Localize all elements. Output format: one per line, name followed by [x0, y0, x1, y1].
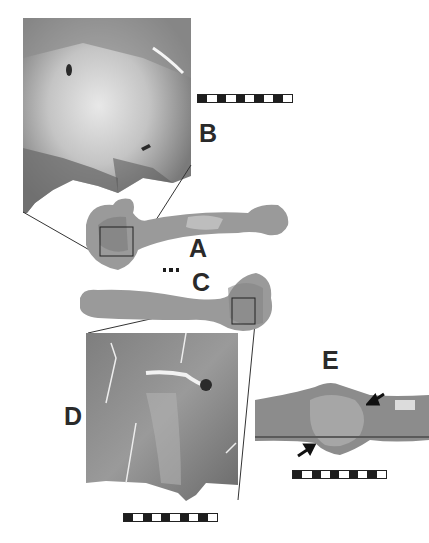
scalebar-e — [292, 470, 387, 479]
panel-c-bone — [78, 268, 278, 336]
panel-a-bone — [78, 195, 290, 273]
arrow-icon-upper-right — [366, 392, 386, 408]
panel-label-d: D — [64, 404, 82, 429]
arrow-icon-lower-left — [296, 442, 316, 458]
panel-label-a: A — [189, 236, 207, 261]
scalebar-d — [123, 513, 218, 522]
panel-d-image — [86, 333, 238, 501]
panel-e-lesion-image — [255, 375, 429, 455]
panel-label-e: E — [322, 348, 339, 373]
